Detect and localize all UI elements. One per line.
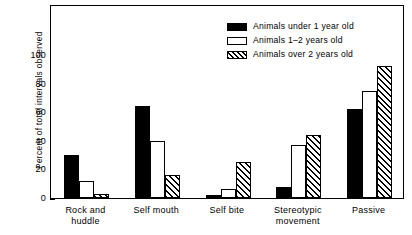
y-tick-label: 0 [16,194,46,203]
solid-swatch [227,23,247,31]
bar [377,66,392,198]
legend-item: Animals over 2 years old [227,48,354,61]
bar [347,109,362,198]
bar [79,181,94,198]
legend-item-label: Animals over 2 years old [253,50,353,59]
bar-group [135,6,180,198]
bar [64,155,79,198]
bar [306,135,321,198]
y-tick-label: 20 [16,165,46,174]
y-tick-label: 80 [16,80,46,89]
legend-item: Animals 1–2 years old [227,34,354,47]
bar [362,91,377,198]
bar [150,141,165,198]
plot-area: Animals under 1 year old Animals 1–2 yea… [50,5,404,199]
bar [221,189,236,198]
y-tick-label: 40 [16,137,46,146]
open-swatch [227,37,247,45]
chart-legend: Animals under 1 year old Animals 1–2 yea… [227,20,354,62]
bar [135,106,150,198]
bar [206,195,221,198]
y-tick-label: 60 [16,108,46,117]
bar [165,175,180,198]
bar-group [64,6,109,198]
x-category-label: Passive [323,205,412,216]
y-tick-label: 100 [16,51,46,60]
bar [236,162,251,198]
legend-item-label: Animals under 1 year old [253,22,354,31]
hatched-swatch [227,51,247,59]
bar [276,187,291,198]
bar-chart-figure: Percent of total intervals observed 0204… [0,0,412,235]
bar [94,194,109,198]
legend-item: Animals under 1 year old [227,20,354,33]
bar [291,145,306,198]
legend-item-label: Animals 1–2 years old [253,36,343,45]
